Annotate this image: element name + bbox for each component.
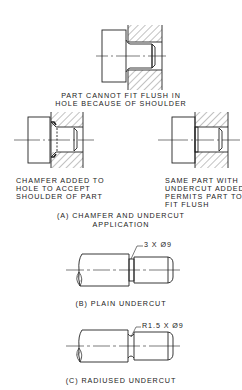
figure-c-title: (C) RADIUSED UNDERCUT: [0, 377, 242, 385]
figure-a-title-line2: APPLICATION: [0, 221, 242, 229]
figure-a-top-drawing: [96, 25, 166, 90]
left-caption-line3: SHOULDER OF PART: [16, 193, 103, 201]
figure-a-right-drawing: [158, 112, 240, 168]
top-caption-line2: HOLE BECAUSE OF SHOULDER: [0, 100, 242, 108]
figure-b-dimension-label: 3 X Ø9: [144, 241, 172, 249]
figure-b-drawing: [66, 246, 180, 286]
figure-b-title: (B) PLAIN UNDERCUT: [0, 300, 242, 308]
figure-c-dimension-label: R1.5 X Ø9: [142, 322, 184, 330]
figure-c-drawing: [66, 327, 180, 362]
right-caption-line4: FIT FLUSH: [165, 201, 209, 209]
figure-a-left-drawing: [14, 112, 94, 168]
